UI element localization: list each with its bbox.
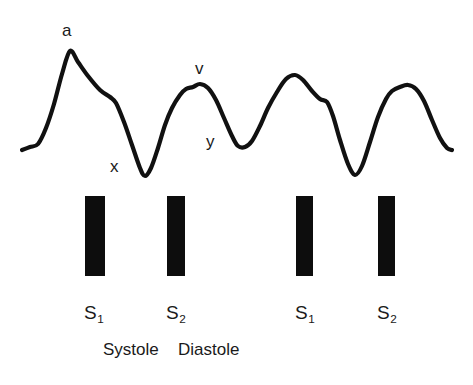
- s1-bar-2: [296, 196, 313, 276]
- jugular-venous-pulse-trace: [22, 51, 452, 176]
- sound-label-s1-1-letter: S: [84, 302, 97, 323]
- sound-label-s2-2-letter: S: [377, 302, 390, 323]
- sound-label-s2-1: S2: [166, 303, 185, 322]
- sound-label-s1-1: S1: [84, 303, 103, 322]
- waveform-chart: [0, 0, 473, 385]
- sound-label-s1-1-subscript: 1: [97, 312, 104, 325]
- sound-label-s2-1-letter: S: [166, 302, 179, 323]
- jvp-waveform-figure: axvy S1S2S1S2 SystoleDiastole: [0, 0, 473, 385]
- sound-label-s2-2-subscript: 2: [390, 312, 397, 325]
- s2-bar-2: [378, 196, 395, 276]
- y-descent-label: y: [206, 133, 215, 150]
- sound-label-s1-2-subscript: 1: [308, 312, 315, 325]
- phase-label-diastole: Diastole: [178, 341, 239, 358]
- a-wave-label: a: [62, 22, 71, 39]
- s2-bar-1: [167, 196, 185, 276]
- sound-label-s1-2: S1: [295, 303, 314, 322]
- sound-label-s2-1-subscript: 2: [179, 312, 186, 325]
- x-descent-label: x: [110, 158, 119, 175]
- sound-label-s1-2-letter: S: [295, 302, 308, 323]
- sound-label-s2-2: S2: [377, 303, 396, 322]
- v-wave-label: v: [195, 60, 204, 77]
- phase-label-systole: Systole: [103, 341, 159, 358]
- s1-bar-1: [85, 196, 105, 276]
